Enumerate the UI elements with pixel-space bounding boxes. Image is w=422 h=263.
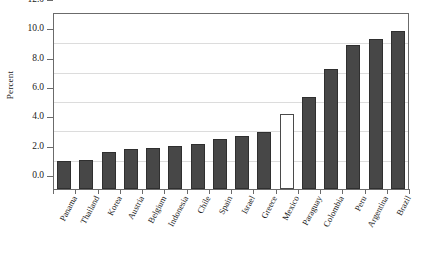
- bar-cell: [387, 13, 409, 189]
- bar-austria[interactable]: [124, 149, 138, 189]
- bar-mexico[interactable]: [280, 114, 294, 189]
- x-axis-label-greece: Greece: [259, 194, 279, 220]
- bar-cell: [53, 13, 75, 189]
- x-axis-label-colombia: Colombia: [321, 194, 346, 229]
- bar-peru[interactable]: [346, 45, 360, 189]
- x-tick-mark: [409, 189, 410, 194]
- y-tick-label: 8.0: [0, 54, 44, 63]
- bar-cell: [98, 13, 120, 189]
- bar-chile[interactable]: [191, 144, 205, 189]
- y-tick-label: 2.0: [0, 142, 44, 151]
- x-axis-label-paraguay: Paraguay: [300, 194, 324, 227]
- x-axis-label-belgium: Belgium: [145, 194, 168, 225]
- y-tick-label: 6.0: [0, 83, 44, 92]
- x-axis-label-chile: Chile: [195, 194, 213, 215]
- x-axis-label-brazil: Brazil: [394, 194, 413, 217]
- bar-argentina[interactable]: [369, 39, 383, 189]
- bar-colombia[interactable]: [324, 69, 338, 189]
- x-axis-label-korea: Korea: [105, 194, 124, 217]
- x-axis-labels: PanamaThailandKoreaAustriaBelgiumIndones…: [53, 194, 409, 263]
- bar-brazil[interactable]: [391, 31, 405, 189]
- bar-israel[interactable]: [235, 136, 249, 189]
- x-axis-label-argentina: Argentina: [366, 194, 391, 229]
- bar-paraguay[interactable]: [302, 97, 316, 189]
- bar-thailand[interactable]: [79, 160, 93, 189]
- bar-spain[interactable]: [213, 139, 227, 189]
- bar-greece[interactable]: [257, 132, 271, 189]
- y-tick-label: 10.0: [0, 24, 44, 33]
- bar-cell: [120, 13, 142, 189]
- bar-cell: [365, 13, 387, 189]
- bar-cell: [209, 13, 231, 189]
- bar-belgium[interactable]: [146, 148, 160, 189]
- bar-cell: [75, 13, 97, 189]
- bar-chart: Percent 0.02.04.06.08.010.012.0 PanamaTh…: [0, 0, 422, 263]
- y-axis-ticks: 0.02.04.06.08.010.012.0: [0, 0, 53, 176]
- bar-cell: [187, 13, 209, 189]
- bar-series: [53, 13, 409, 189]
- clipped-caption-fragment: [14, 0, 314, 3]
- bar-cell: [276, 13, 298, 189]
- bar-cell: [298, 13, 320, 189]
- bar-korea[interactable]: [102, 152, 116, 189]
- x-axis-label-indonesia: Indonesia: [166, 194, 191, 228]
- bar-panama[interactable]: [57, 161, 71, 189]
- x-axis-label-austria: Austria: [125, 194, 146, 221]
- bar-indonesia[interactable]: [168, 146, 182, 189]
- x-axis-label-spain: Spain: [217, 194, 235, 216]
- bar-cell: [342, 13, 364, 189]
- x-axis-label-panama: Panama: [57, 194, 79, 223]
- y-tick-label: 0.0: [0, 171, 44, 180]
- y-tick-label: 4.0: [0, 112, 44, 121]
- bar-cell: [142, 13, 164, 189]
- bar-cell: [164, 13, 186, 189]
- x-axis-label-israel: Israel: [239, 194, 257, 216]
- bar-cell: [320, 13, 342, 189]
- x-axis-label-peru: Peru: [352, 194, 368, 213]
- bar-cell: [253, 13, 275, 189]
- y-tick-mark: [47, 0, 53, 1]
- x-axis-label-mexico: Mexico: [280, 194, 301, 222]
- bar-cell: [231, 13, 253, 189]
- x-axis-label-thailand: Thailand: [78, 194, 101, 226]
- y-tick-label: 12.0: [0, 0, 44, 4]
